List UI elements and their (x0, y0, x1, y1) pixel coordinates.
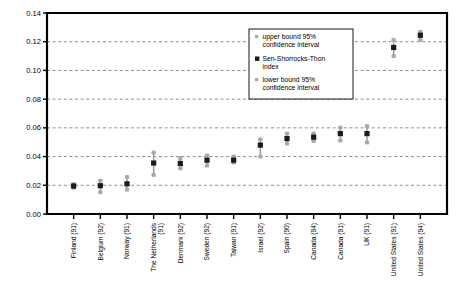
y-tick-label: 0.10 (26, 66, 41, 75)
y-tick-label: 0.00 (26, 210, 41, 219)
x-tick-label-line: (91) (157, 223, 165, 235)
index-marker (71, 183, 76, 188)
x-tick-label-line: Sweden (92) (203, 223, 211, 260)
upper-bound-marker (258, 137, 262, 141)
x-tick-label-line: Finland (91) (70, 223, 78, 258)
x-tick-label-line: United States (91) (390, 223, 398, 276)
lower-bound-marker (205, 164, 209, 168)
x-tick-label: Sweden (92) (203, 223, 211, 260)
sen-shorrocks-thon-index-chart: 0.000.020.040.060.080.100.120.14 Finland… (0, 0, 461, 296)
index-marker (204, 158, 209, 163)
upper-bound-marker (178, 156, 182, 160)
legend: upper bound 95%confidence intervalSen-Sh… (249, 29, 353, 99)
x-tick-label: UK (91) (363, 223, 371, 246)
data-point (71, 182, 76, 190)
x-tick-label-line: Denmark (92) (177, 223, 185, 263)
legend-label-line2: confidence interval (263, 41, 320, 48)
legend-swatch-bound-icon (255, 78, 258, 81)
y-tick-label: 0.02 (26, 181, 41, 190)
x-tick-label-line: Spain (90) (283, 223, 291, 253)
legend-label-line1: upper bound 95% (263, 33, 317, 41)
data-point (124, 175, 129, 191)
upper-bound-marker (98, 179, 102, 183)
legend-label-line2: confidence interval (263, 84, 320, 91)
legend-swatch-bound-icon (255, 35, 258, 38)
lower-bound-marker (418, 38, 422, 42)
upper-bound-marker (365, 124, 369, 128)
index-marker (124, 181, 129, 186)
data-point (204, 154, 209, 168)
index-marker (178, 161, 183, 166)
x-tick-label: Finland (91) (70, 223, 78, 258)
lower-bound-marker (125, 188, 129, 192)
upper-bound-marker (338, 126, 342, 130)
lower-bound-marker (338, 139, 342, 143)
y-tick-label: 0.08 (26, 95, 41, 104)
x-tick-label: Denmark (92) (177, 223, 185, 263)
index-marker (98, 183, 103, 188)
upper-bound-marker (152, 151, 156, 155)
x-tick-label-line: Norway (91) (123, 223, 131, 259)
legend-label-line1: lower bound 95% (263, 76, 316, 83)
y-tick-label: 0.04 (26, 152, 41, 161)
x-tick-label-line: The Netherlands (150, 222, 157, 271)
legend-item: upper bound 95%confidence interval (255, 33, 320, 48)
index-marker (231, 158, 236, 163)
index-marker (338, 131, 343, 136)
data-point (364, 124, 369, 144)
x-tick-label: United States (91) (390, 223, 398, 276)
upper-bound-marker (392, 38, 396, 42)
legend-label-line2: index (263, 63, 280, 70)
x-tick-label-line: Israel (92) (257, 223, 265, 253)
x-tick-label: Spain (90) (283, 223, 291, 253)
x-tick-label-line: Canada (91) (337, 223, 345, 260)
lower-bound-marker (178, 166, 182, 170)
index-marker (418, 33, 423, 38)
x-tick-label: Taiwan (91) (230, 223, 238, 257)
index-marker (151, 160, 156, 165)
index-marker (258, 142, 263, 147)
data-point (178, 156, 183, 170)
data-point (418, 30, 423, 42)
lower-bound-marker (285, 142, 289, 146)
lower-bound-marker (392, 54, 396, 58)
x-tick-label: Canada (94) (310, 223, 318, 260)
x-tick-label-line: Canada (94) (310, 223, 318, 260)
x-tick-label-line: UK (91) (363, 223, 371, 246)
index-marker (364, 131, 369, 136)
lower-bound-marker (98, 190, 102, 194)
x-tick-label: Belgium (92) (97, 223, 105, 260)
data-point (391, 38, 396, 58)
x-tick-label: Norway (91) (123, 223, 131, 259)
x-tick-label-line: Taiwan (91) (230, 223, 238, 257)
index-marker (284, 136, 289, 141)
data-point (338, 126, 343, 143)
upper-bound-marker (125, 175, 129, 179)
legend-item: lower bound 95%confidence interval (255, 76, 320, 91)
x-tick-label: Canada (91) (337, 223, 345, 260)
y-tick-label: 0.14 (26, 9, 41, 18)
x-tick-label-line: Belgium (92) (97, 223, 105, 260)
upper-bound-marker (285, 132, 289, 136)
y-tick-label: 0.06 (26, 123, 41, 132)
index-marker (391, 45, 396, 50)
data-point (284, 132, 289, 146)
lower-bound-marker (152, 173, 156, 177)
data-point (311, 132, 316, 143)
y-tick-label: 0.12 (26, 37, 41, 46)
x-tick-label: Israel (92) (257, 223, 265, 253)
index-marker (311, 135, 316, 140)
legend-label-line1: Sen-Shorrocks-Thon (263, 55, 326, 62)
x-tick-label: United States (94) (417, 223, 425, 276)
lower-bound-marker (258, 155, 262, 159)
legend-swatch-index-icon (255, 57, 259, 61)
x-tick-label-line: United States (94) (417, 223, 425, 276)
data-point (231, 155, 236, 165)
lower-bound-marker (365, 141, 369, 145)
upper-bound-marker (205, 154, 209, 158)
data-point (98, 179, 103, 194)
